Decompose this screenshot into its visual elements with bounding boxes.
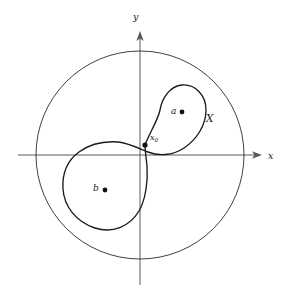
basepoint-x0-dot <box>142 142 147 147</box>
figure-eight-curve <box>63 85 206 230</box>
point-a-label: a <box>171 107 176 116</box>
basepoint-x0-label: x0 <box>150 134 158 142</box>
point-a-dot <box>180 110 185 115</box>
basepoint-x0-label-subscript: 0 <box>155 137 159 143</box>
y-axis <box>136 31 143 285</box>
curve-label-X: X <box>206 113 213 124</box>
point-b-label: b <box>93 184 99 193</box>
point-b-dot <box>103 188 108 193</box>
basepoint-x0-label-base: x <box>150 133 155 142</box>
x-axis-label: x <box>268 151 273 161</box>
figure-canvas <box>0 0 285 298</box>
math-figure: y x X a b x0 <box>0 0 285 298</box>
y-axis-label: y <box>133 12 138 22</box>
